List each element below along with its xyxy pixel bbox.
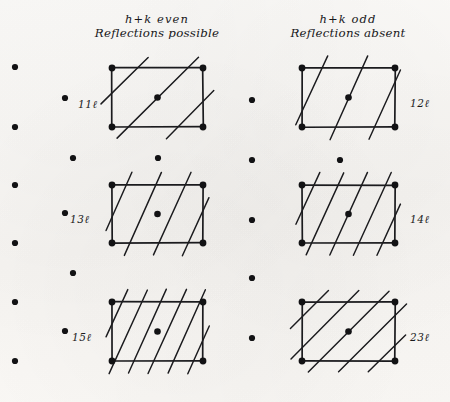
lattice-dot [12,358,18,364]
cell-11l [101,57,214,138]
cell-corner-dot [392,124,399,131]
cell-14l [296,172,401,255]
hatch-line-1 [101,57,148,103]
hatch-line-1 [106,290,128,337]
lattice-dot [249,217,255,223]
lattice-dot [12,240,18,246]
hatch-line-3 [166,91,213,139]
cell-edge-right [203,68,204,127]
cell-center-dot [154,94,161,101]
lattice-dot [249,97,255,103]
lattice-dot [12,124,18,130]
cell-corner-dot [200,65,207,72]
hatch-line-1 [106,172,132,230]
lattice-dot [155,155,161,161]
cell-corner-dot [109,299,116,306]
lattice-dot [12,299,18,305]
cell-corner-dot [299,65,306,72]
cell-corner-dot [392,240,399,247]
lattice-dot-layer [12,64,343,364]
cell-corner-dot [200,299,207,306]
cell-corner-dot [299,182,306,189]
cell-corner-dot [392,299,399,306]
unit-cell-layer [101,56,407,374]
hatch-line-1 [290,291,328,329]
cell-index-label-13l: 13ℓ [70,213,90,225]
lattice-diagram [0,0,450,402]
cell-center-dot [345,94,352,101]
lattice-dot [337,157,343,163]
cell-corner-dot [200,358,207,365]
lattice-dot [12,182,18,188]
lattice-dot [70,270,76,276]
lattice-dot [62,210,68,216]
lattice-dot [249,275,255,281]
lattice-dot [62,95,68,101]
cell-13l [106,172,209,256]
cell-edge-bottom [112,243,203,244]
cell-corner-dot [109,124,116,131]
lattice-dot [249,157,255,163]
lattice-dot [249,335,255,341]
lattice-dot [12,64,18,70]
cell-index-label-14l: 14ℓ [410,213,430,225]
cell-corner-dot [109,182,116,189]
cell-corner-dot [299,124,306,131]
cell-corner-dot [392,358,399,365]
cell-corner-dot [299,299,306,306]
cell-corner-dot [392,182,399,189]
cell-corner-dot [200,182,207,189]
cell-corner-dot [109,65,116,72]
hatch-line-5 [368,335,405,372]
cell-corner-dot [299,358,306,365]
figure-page: h+k even Reflections possible h+k odd Re… [0,0,450,402]
cell-corner-dot [200,124,207,131]
cell-corner-dot [392,65,399,72]
cell-center-dot [345,328,352,335]
cell-corner-dot [299,240,306,247]
cell-index-label-15l: 15ℓ [72,331,92,343]
cell-center-dot [345,211,352,218]
cell-12l [296,56,401,140]
cell-corner-dot [109,358,116,365]
hatch-line-1 [296,172,320,224]
hatch-line-5 [377,204,400,255]
cell-edge-right [395,302,396,361]
cell-center-dot [154,211,161,218]
hatch-line-4 [182,198,209,256]
lattice-dot [70,155,76,161]
cell-index-label-12l: 12ℓ [410,97,430,109]
cell-23l [290,290,406,372]
hatch-line-6 [188,326,209,374]
cell-corner-dot [109,240,116,247]
cell-15l [106,289,209,374]
lattice-dot [62,328,68,334]
cell-center-dot [154,328,161,335]
cell-edge-right [395,68,396,127]
cell-corner-dot [200,240,207,247]
cell-index-label-23l: 23ℓ [410,331,430,343]
cell-index-label-11l: 11ℓ [78,98,98,110]
